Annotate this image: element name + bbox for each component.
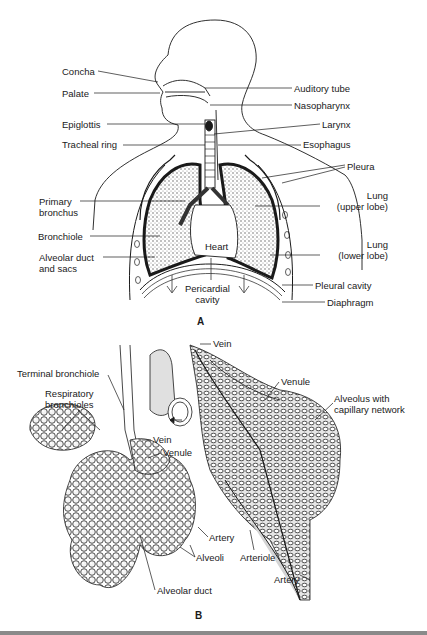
label-alveoli: Alveoli [196, 552, 224, 563]
label-palate: Palate [62, 88, 89, 99]
label-lung-upper-lobe: Lung (upper lobe) [322, 190, 388, 212]
label-respiratory-bronchioles: Respiratory bronchioles [45, 388, 94, 410]
label-pleura: Pleura [347, 161, 374, 172]
label-pericardial-cavity: Pericardial cavity [185, 283, 230, 305]
panel-a-figure [93, 20, 362, 300]
label-heart: Heart [205, 241, 228, 252]
label-primary-bronchus: Primary bronchus [39, 196, 78, 218]
label-auditory-tube: Auditory tube [294, 83, 350, 94]
label-tracheal-ring: Tracheal ring [62, 139, 117, 150]
label-alveolar-duct: Alveolar duct [157, 585, 212, 596]
label-terminal-bronchiole: Terminal bronchiole [17, 368, 99, 379]
label-alveolus-with-capillary-network: Alveolus with capillary network [334, 393, 405, 415]
label-esophagus: Esophagus [303, 139, 351, 150]
label-artery-bottom: Artery [274, 574, 299, 585]
bottom-divider [0, 631, 427, 635]
panel-b-letter: B [195, 610, 202, 621]
label-concha: Concha [62, 66, 95, 77]
label-arteriole: Arteriole [240, 552, 275, 563]
label-pleural-cavity: Pleural cavity [315, 280, 372, 291]
label-artery-mid: Artery [209, 532, 234, 543]
label-alveolar-duct-and-sacs: Alveolar duct and sacs [39, 252, 94, 274]
panel-a-letter: A [197, 316, 204, 327]
label-vein-top: Vein [213, 338, 232, 349]
label-venule-right: Venule [281, 376, 310, 387]
label-nasopharynx: Nasopharynx [294, 100, 350, 111]
label-venule-mid: Venule [163, 447, 192, 458]
label-lung-lower-lobe: Lung (lower lobe) [323, 239, 388, 261]
label-vein-mid: Vein [153, 434, 172, 445]
label-larynx: Larynx [322, 119, 351, 130]
label-epiglottis: Epiglottis [62, 119, 101, 130]
label-bronchiole: Bronchiole [38, 231, 83, 242]
label-diaphragm: Diaphragm [327, 297, 373, 308]
